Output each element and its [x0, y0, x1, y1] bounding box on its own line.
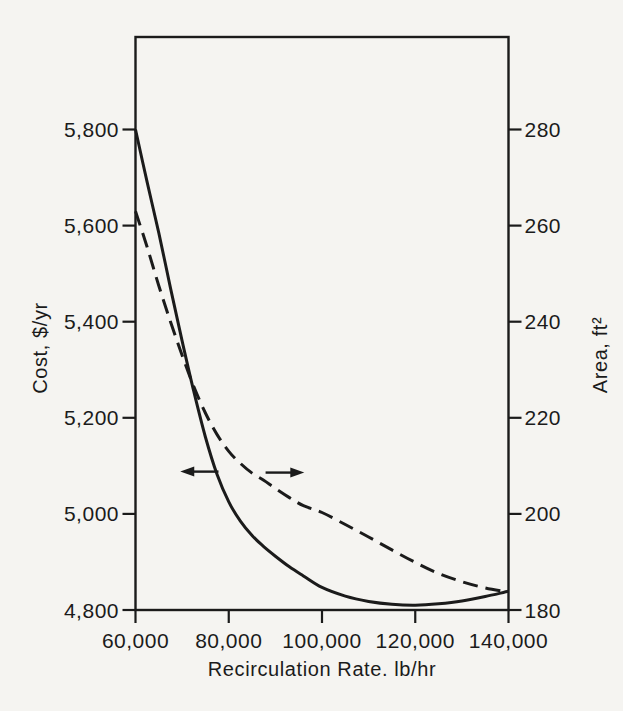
- y-left-tick-label: 5,200: [0, 405, 119, 430]
- y-left-tick-label: 4,800: [0, 598, 119, 623]
- annual-cost-curve: [136, 130, 509, 606]
- plot-border: [136, 37, 509, 610]
- y-left-tick-label: 5,800: [0, 117, 119, 142]
- y-left-tick-label: 5,400: [0, 309, 119, 334]
- y-right-tick-label: 200: [525, 501, 595, 526]
- right-arrow-head: [290, 468, 304, 478]
- y-right-tick-label: 260: [525, 213, 595, 238]
- y-left-tick-label: 5,600: [0, 213, 119, 238]
- y-left-axis-title: Cost, $/yr: [28, 302, 53, 394]
- exchanger-area-curve: [136, 211, 509, 592]
- scanned-chart-figure: 5,8005,6005,4005,2005,0004,8002802602402…: [0, 0, 623, 711]
- y-right-tick-label: 240: [525, 309, 595, 334]
- left-arrow-head: [180, 467, 194, 477]
- x-axis-title: Recirculation Rate. lb/hr: [135, 657, 509, 682]
- y-right-tick-label: 220: [525, 405, 595, 430]
- y-right-axis-title: Area, ft²: [588, 317, 613, 394]
- y-right-tick-label: 180: [525, 598, 595, 623]
- x-tick-label: 140,000: [454, 628, 564, 653]
- y-right-tick-label: 280: [525, 117, 595, 142]
- y-left-tick-label: 5,000: [0, 501, 119, 526]
